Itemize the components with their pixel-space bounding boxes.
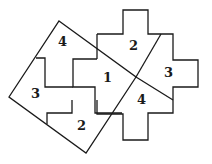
label-square-piece-3: 3: [31, 86, 40, 101]
cross-outline-top: [97, 10, 198, 140]
diagonal-cut-2: [136, 34, 161, 77]
label-cross-piece-4: 4: [137, 92, 146, 107]
label-square-piece-2: 2: [77, 118, 86, 133]
dissection-diagram: 4 3 2 1 2 3 4: [0, 0, 212, 164]
label-cross-piece-2: 2: [129, 38, 138, 53]
cross-inner-edge-left: [36, 58, 73, 87]
label-square-piece-4: 4: [58, 34, 67, 49]
label-cross-piece-3: 3: [164, 65, 173, 80]
cross-inner-edge-lower: [47, 100, 72, 124]
label-center-piece-1: 1: [103, 70, 112, 85]
